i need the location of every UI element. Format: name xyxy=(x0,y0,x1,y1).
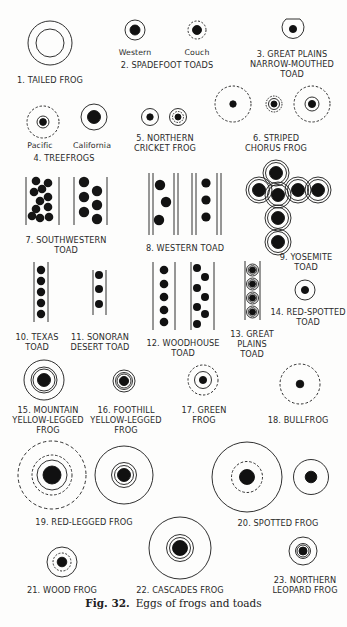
egg-tailed-frog xyxy=(28,21,72,65)
label-southwestern-toad-line1: 7. SOUTHWESTERN xyxy=(25,235,106,245)
label-red-legged-frog: 19. RED-LEGGED FROG xyxy=(35,517,132,527)
figure-caption: Fig. 32.Eggs of frogs and toads xyxy=(0,597,347,609)
label-cascades-frog: 22. CASCADES FROG xyxy=(136,585,224,595)
label-texas-toad-line1: 10. TEXAS xyxy=(15,332,58,342)
label-foothill-yellow-legged-frog-line2: YELLOW-LEGGED xyxy=(90,415,161,425)
label-red-spotted-toad-line1: 14. RED-SPOTTED xyxy=(270,307,345,317)
label-green-frog-line2: FROG xyxy=(192,415,216,425)
label-yosemite-toad-line1: 9. YOSEMITE xyxy=(280,252,333,262)
label-red-spotted-toad-line2: TOAD xyxy=(296,317,320,327)
egg-chorus-frog-a xyxy=(215,86,251,122)
label-spotted-frog: 20. SPOTTED FROG xyxy=(238,518,319,528)
egg-northern-leopard-frog xyxy=(289,537,317,565)
label-sonoran-desert-toad-line1: 11. SONORAN xyxy=(71,332,129,342)
egg-woodhouse-toad xyxy=(153,262,214,330)
egg-spotted-frog-a xyxy=(212,442,282,512)
egg-western-toad xyxy=(149,173,221,235)
egg-western-spadefoot xyxy=(125,20,145,40)
label-mountain-yellow-legged-frog-line2: YELLOW-LEGGED xyxy=(12,415,83,425)
egg-wood-frog xyxy=(47,547,77,577)
label-northern-leopard-frog-line2: LEOPARD FROG xyxy=(272,585,337,595)
egg-bullfrog xyxy=(280,364,320,404)
label-woodhouse-toad-line1: 12. WOODHOUSE xyxy=(146,338,219,348)
egg-sonoran-desert-toad xyxy=(93,270,106,315)
egg-red-legged-frog-a xyxy=(18,441,86,509)
label-western-spadefoot: Western xyxy=(119,48,152,58)
egg-chorus-frog-c xyxy=(294,86,330,122)
egg-cascades-frog xyxy=(149,517,211,579)
label-wood-frog: 21. WOOD FROG xyxy=(27,585,97,595)
label-chorus-frog-line2: CHORUS FROG xyxy=(245,143,307,153)
label-northern-leopard-frog-line1: 23. NORTHERN xyxy=(274,575,337,585)
egg-cricket-frog-b xyxy=(170,109,187,126)
label-treefrogs: 4. TREEFROGS xyxy=(33,153,94,163)
egg-spotted-frog-b xyxy=(294,460,329,495)
label-narrow-mouthed-toad-line1: 3. GREAT PLAINS xyxy=(257,49,328,59)
egg-texas-toad xyxy=(34,262,48,322)
egg-couch-spadefoot xyxy=(188,21,206,39)
label-great-plains-toad-line1: 13. GREAT xyxy=(230,329,274,339)
egg-chorus-frog-b xyxy=(266,96,282,112)
egg-southwestern-toad xyxy=(26,177,107,225)
label-california-treefrog: California xyxy=(73,141,111,151)
egg-red-legged-frog-b xyxy=(95,446,153,504)
egg-great-plains-toad xyxy=(245,261,260,320)
egg-yosemite-toad xyxy=(246,160,331,255)
label-foothill-yellow-legged-frog-line1: 16. FOOTHILL xyxy=(97,405,154,415)
label-sonoran-desert-toad-line2: DESERT TOAD xyxy=(71,342,130,352)
label-pacific-treefrog: Pacific xyxy=(27,141,52,151)
label-cricket-frog-line1: 5. NORTHERN xyxy=(136,133,193,143)
label-green-frog-line1: 17. GREEN xyxy=(181,405,226,415)
egg-california-treefrog xyxy=(81,104,107,130)
label-bullfrog: 18. BULLFROG xyxy=(268,415,329,425)
label-western-toad: 8. WESTERN TOAD xyxy=(146,243,224,253)
label-southwestern-toad-line2: TOAD xyxy=(54,245,78,255)
label-mountain-yellow-legged-frog-line3: FROG xyxy=(36,425,60,435)
egg-green-frog xyxy=(188,365,218,395)
label-texas-toad-line2: TOAD xyxy=(25,342,49,352)
label-narrow-mouthed-toad-line2: NARROW-MOUTHED xyxy=(250,59,334,69)
egg-pacific-treefrog xyxy=(27,106,59,138)
label-yosemite-toad-line2: TOAD xyxy=(294,262,318,272)
label-couch-spadefoot: Couch xyxy=(185,48,210,58)
label-mountain-yellow-legged-frog-line1: 15. MOUNTAIN xyxy=(18,405,79,415)
label-foothill-yellow-legged-frog-line3: FROG xyxy=(114,425,138,435)
label-great-plains-toad-line3: TOAD xyxy=(240,349,264,359)
label-narrow-mouthed-toad-line3: TOAD xyxy=(280,69,304,79)
figure-number: Fig. 32. xyxy=(85,597,129,609)
label-chorus-frog-line1: 6. STRIPED xyxy=(253,133,299,143)
label-tailed-frog: 1. TAILED FROG xyxy=(17,75,83,85)
egg-cricket-frog-a xyxy=(142,109,159,126)
figure-caption-text: Eggs of frogs and toads xyxy=(136,597,262,609)
label-great-plains-toad-line2: PLAINS xyxy=(237,339,267,349)
label-woodhouse-toad-line2: TOAD xyxy=(171,348,195,358)
label-cricket-frog-line2: CRICKET FROG xyxy=(134,143,196,153)
egg-narrow-mouthed-toad xyxy=(282,19,304,38)
egg-red-spotted-toad xyxy=(295,280,315,300)
label-spadefoot-toads: 2. SPADEFOOT TOADS xyxy=(121,60,214,70)
egg-mountain-yellow-legged-frog xyxy=(24,360,64,400)
egg-foothill-yellow-legged-frog xyxy=(113,370,135,392)
